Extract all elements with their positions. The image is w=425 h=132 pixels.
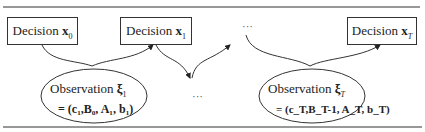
edge-obsT-xT: [310, 45, 380, 66]
edge-dots-up: [192, 45, 230, 78]
decision-x0-node: Decision x0: [7, 17, 78, 45]
edge-x1-dots: [156, 45, 190, 78]
ellipsis-top: ···: [242, 20, 253, 32]
decision-x1-node: Decision x1: [120, 17, 192, 45]
observation-1-label: Observation ξ1 = (c₁,B₀, A₁, b₁): [50, 81, 133, 117]
edge-x0-obs1: [42, 45, 92, 66]
ellipsis-bottom: ···: [192, 90, 203, 102]
edge-dots-obsT: [246, 35, 310, 66]
decision-xT-node: Decision xT: [347, 17, 417, 45]
edge-obs1-x1: [92, 45, 153, 66]
observation-T-label: Observation ξT = (c_T,B_T-1, A_T, b_T): [268, 81, 390, 117]
